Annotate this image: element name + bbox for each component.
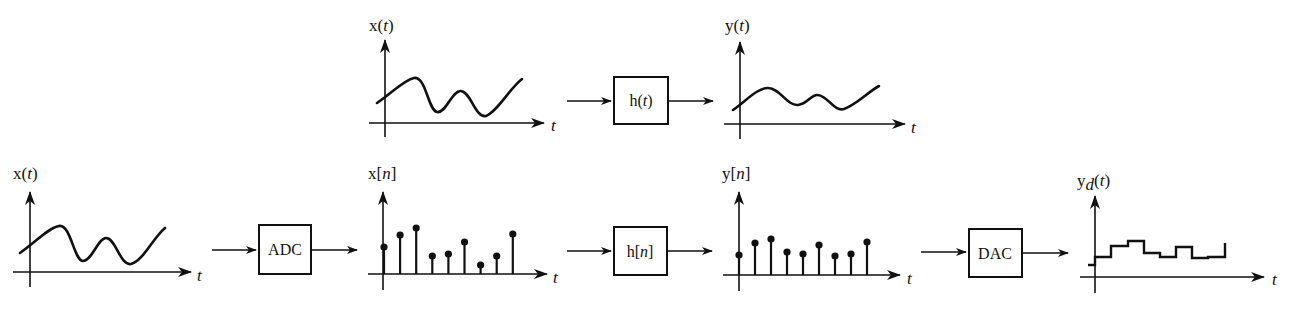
sample-dot xyxy=(863,238,870,245)
sample-dot xyxy=(815,241,822,248)
sample-dot xyxy=(831,252,838,259)
sample-dot xyxy=(767,235,774,242)
signal-curve xyxy=(733,86,879,110)
bottom-input-plot: x(t) t xyxy=(13,164,203,287)
sample-dot xyxy=(429,252,436,259)
sample-dot xyxy=(477,261,484,268)
sample-dot xyxy=(493,252,500,259)
sample-stems xyxy=(735,235,870,275)
adc-label: ADC xyxy=(268,241,302,258)
sampled-plot: x[n] t xyxy=(368,164,559,290)
dac-output-label: yd(t) xyxy=(1077,171,1110,194)
dac-label: DAC xyxy=(978,245,1012,262)
dac-output-plot: yd(t) t xyxy=(1077,171,1278,293)
sample-dot xyxy=(445,250,452,257)
top-output-label: y(t) xyxy=(725,16,750,35)
bottom-input-label: x(t) xyxy=(13,164,38,183)
sample-dot xyxy=(783,248,790,255)
dac-block: DAC xyxy=(969,229,1022,277)
adc-block: ADC xyxy=(259,225,311,274)
sample-dot xyxy=(461,238,468,245)
x-axis-label: t xyxy=(553,268,559,287)
system-box-h-t: h(t) xyxy=(614,77,668,124)
sample-dot xyxy=(799,250,806,257)
sample-dot xyxy=(751,239,758,246)
system-box-h-n: h[n] xyxy=(614,227,667,275)
sample-dot xyxy=(397,231,404,238)
signal-curve xyxy=(20,226,165,264)
x-axis-label: t xyxy=(911,118,917,137)
sample-dot xyxy=(380,243,387,250)
sample-stems xyxy=(380,224,516,274)
sample-dot xyxy=(509,230,516,237)
top-input-label: x(t) xyxy=(369,16,394,35)
signal-curve xyxy=(377,78,522,116)
staircase-signal xyxy=(1088,241,1225,265)
filtered-plot: y[n] t xyxy=(722,164,913,291)
x-axis-label: t xyxy=(551,116,557,135)
top-input-plot: x(t) t xyxy=(369,16,557,137)
sample-dot xyxy=(847,250,854,257)
sample-dot xyxy=(735,251,742,258)
signal-processing-diagram: x(t) t h(t) y(t) t x(t) t ADC x[n] t xyxy=(0,0,1304,309)
system-label: h[n] xyxy=(627,243,654,260)
top-output-plot: y(t) t xyxy=(724,16,917,139)
filtered-label: y[n] xyxy=(722,164,750,183)
x-axis-label: t xyxy=(1272,270,1278,289)
system-label: h(t) xyxy=(629,92,652,110)
sampled-label: x[n] xyxy=(368,164,396,183)
sample-dot xyxy=(413,224,420,231)
x-axis-label: t xyxy=(197,266,203,285)
x-axis-label: t xyxy=(907,269,913,288)
